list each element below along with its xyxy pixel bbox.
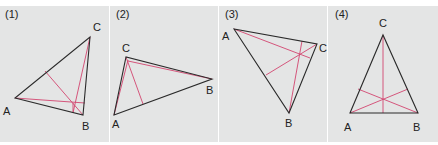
vertex-label-b: B xyxy=(285,117,292,129)
vertex-label-c: C xyxy=(122,42,130,54)
vertex-label-c: C xyxy=(379,17,387,29)
triangle-3: A B C xyxy=(222,29,327,129)
vertex-label-c: C xyxy=(93,21,101,33)
vertex-label-b: B xyxy=(82,120,89,132)
vertex-label-a: A xyxy=(3,105,11,117)
triangle-4: A B C xyxy=(344,17,420,133)
vertex-label-a: A xyxy=(222,30,230,42)
vertex-label-a: A xyxy=(112,118,120,130)
triangle-2: A B C xyxy=(112,42,213,130)
vertex-label-b: B xyxy=(413,121,420,133)
vertex-label-b: B xyxy=(206,84,213,96)
triangle-diagrams: A B C A B C A B C A B xyxy=(0,0,438,145)
vertex-label-a: A xyxy=(344,121,352,133)
vertex-label-c: C xyxy=(319,42,327,54)
triangle-1: A B C xyxy=(3,21,101,132)
